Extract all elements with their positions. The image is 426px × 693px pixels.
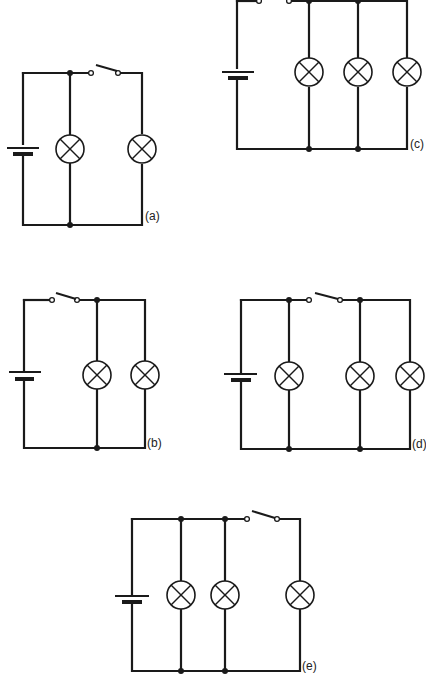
switch-contact-icon (245, 517, 250, 522)
lamp-icon (131, 361, 159, 389)
circuit-a: (a) (7, 65, 160, 228)
switch-icon (252, 511, 275, 518)
circuit-c: (c) (222, 0, 424, 152)
junction-dot-icon (357, 446, 363, 452)
circuit-label: (d) (412, 437, 426, 451)
circuit-label: (c) (410, 137, 424, 151)
junction-dot-icon (355, 0, 361, 4)
switch-contact-icon (275, 517, 280, 522)
switch-icon (315, 293, 338, 299)
switch-contact-icon (287, 0, 292, 3)
junction-dot-icon (222, 668, 228, 674)
circuit-b: (b) (9, 293, 162, 451)
junction-dot-icon (94, 445, 100, 451)
lamp-icon (295, 58, 323, 86)
junction-dot-icon (286, 297, 292, 303)
lamp-icon (393, 58, 421, 86)
lamp-icon (167, 581, 195, 609)
switch-icon (96, 65, 117, 71)
junction-dot-icon (355, 146, 361, 152)
battery-icon (231, 378, 251, 382)
junction-dot-icon (306, 0, 312, 4)
battery-icon (228, 76, 248, 80)
circuit-e: (e) (115, 511, 317, 674)
switch-contact-icon (307, 298, 312, 303)
circuit-d: (d) (224, 293, 426, 452)
junction-dot-icon (178, 516, 184, 522)
circuit-label: (e) (302, 659, 317, 673)
junction-dot-icon (286, 446, 292, 452)
lamp-icon (346, 362, 374, 390)
junction-dot-icon (67, 70, 73, 76)
lamp-icon (396, 362, 424, 390)
switch-contact-icon (338, 298, 343, 303)
junction-dot-icon (306, 146, 312, 152)
switch-contact-icon (257, 0, 262, 3)
lamp-icon (275, 362, 303, 390)
circuit-diagrams: (a) (c) (0, 0, 426, 693)
lamp-icon (211, 581, 239, 609)
battery-icon (122, 600, 142, 604)
circuit-label: (a) (145, 209, 160, 223)
lamp-icon (83, 361, 111, 389)
junction-dot-icon (357, 297, 363, 303)
switch-contact-icon (50, 298, 55, 303)
battery-icon (13, 152, 33, 156)
switch-icon (56, 293, 76, 299)
lamp-icon (56, 135, 84, 163)
junction-dot-icon (94, 297, 100, 303)
circuit-label: (b) (147, 436, 162, 450)
lamp-icon (286, 581, 314, 609)
junction-dot-icon (67, 222, 73, 228)
junction-dot-icon (222, 516, 228, 522)
lamp-icon (128, 135, 156, 163)
switch-contact-icon (89, 71, 94, 76)
junction-dot-icon (178, 668, 184, 674)
battery-icon (15, 377, 34, 381)
lamp-icon (344, 58, 372, 86)
